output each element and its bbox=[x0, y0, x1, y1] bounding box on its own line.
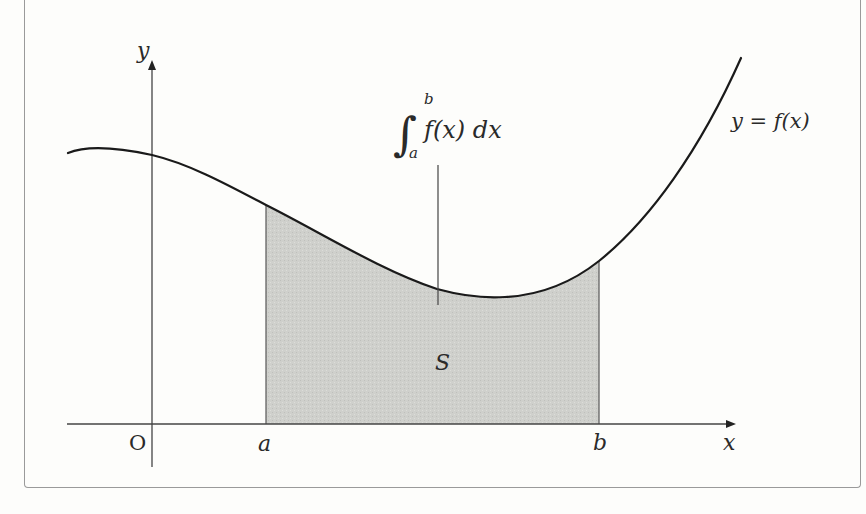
x-axis-arrow-icon bbox=[726, 420, 736, 428]
shaded-area-s bbox=[266, 205, 599, 424]
integral-area-diagram: y x O a b y = f(x) S ∫ b a f(x) dx bbox=[0, 0, 866, 514]
integral-body: f(x) dx bbox=[422, 116, 502, 144]
curve-label: y = f(x) bbox=[730, 109, 810, 133]
lower-bound-label-a: a bbox=[258, 431, 271, 456]
curve-f-of-x bbox=[68, 58, 741, 297]
origin-label: O bbox=[129, 431, 146, 455]
y-axis-label: y bbox=[136, 38, 150, 63]
upper-bound-label-b: b bbox=[593, 430, 607, 455]
x-axis-label: x bbox=[723, 430, 736, 455]
integral-lower-limit: a bbox=[409, 144, 418, 162]
integral-upper-limit: b bbox=[424, 90, 434, 108]
area-label-s: S bbox=[435, 350, 450, 375]
